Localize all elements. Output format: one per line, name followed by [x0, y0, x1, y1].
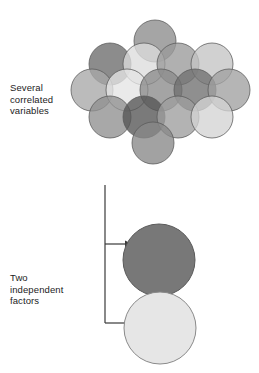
diagram-canvas: Several correlated variables Two indepen…	[0, 0, 259, 373]
cluster-circle	[191, 96, 233, 138]
independent-factors-group	[112, 216, 212, 368]
correlated-variables-cluster	[60, 10, 259, 175]
label-independent-factors: Two independent factors	[10, 272, 80, 307]
cluster-circle	[132, 122, 174, 164]
factor-one-circle	[123, 224, 195, 296]
factor-two-circle	[124, 292, 196, 364]
